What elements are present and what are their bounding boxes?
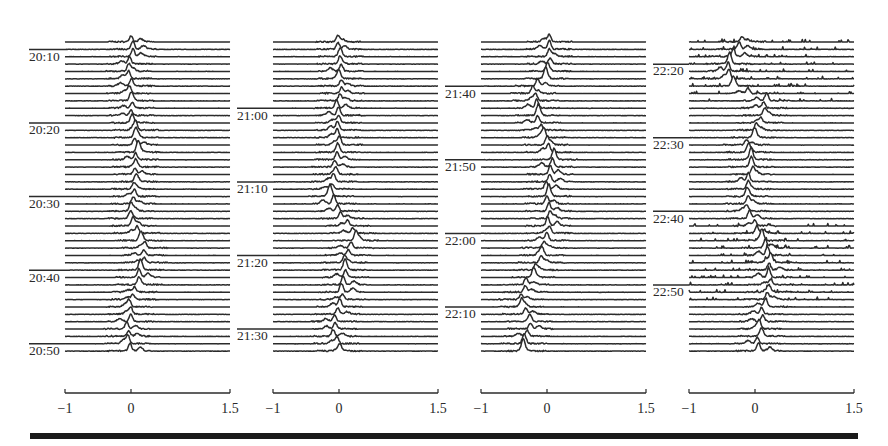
x-tick-label: 1.5	[221, 401, 239, 416]
x-tick-label: 1.5	[845, 401, 863, 416]
waterfall-figure: 20:1020:2020:3020:4020:50−101.5 21:0021:…	[0, 0, 888, 446]
trace	[65, 141, 230, 153]
x-tick-label: −1	[266, 401, 281, 416]
trace	[481, 104, 646, 116]
trace	[273, 322, 438, 329]
trace	[65, 138, 230, 145]
time-label: 20:30	[29, 196, 60, 211]
trace	[481, 323, 646, 329]
trace	[65, 168, 230, 175]
trace	[273, 294, 438, 300]
trace	[481, 67, 646, 79]
trace	[65, 257, 230, 263]
trace	[689, 156, 854, 168]
time-label: 22:10	[445, 306, 476, 321]
trace	[273, 242, 438, 248]
trace	[481, 308, 646, 315]
trace	[481, 241, 646, 248]
trace	[689, 37, 854, 43]
time-label: 20:10	[29, 49, 60, 64]
x-tick-label: 0	[752, 401, 759, 416]
time-label: 20:50	[29, 343, 60, 358]
trace	[689, 315, 854, 323]
trace	[689, 128, 854, 138]
trace	[65, 331, 230, 337]
trace	[65, 294, 230, 300]
time-label: 21:30	[237, 328, 268, 343]
trace	[65, 127, 230, 138]
trace	[481, 264, 646, 271]
trace	[65, 287, 230, 293]
trace	[273, 315, 438, 322]
trace	[273, 161, 438, 168]
trace	[481, 278, 646, 285]
trace	[481, 330, 646, 337]
trace	[273, 35, 438, 42]
trace	[689, 140, 854, 146]
trace	[273, 308, 438, 315]
trace	[481, 124, 646, 131]
trace	[273, 143, 438, 153]
trace	[689, 102, 854, 109]
trace	[689, 220, 854, 227]
x-tick-label: −1	[474, 401, 489, 416]
time-label: 22:00	[445, 233, 476, 248]
trace	[65, 102, 230, 108]
trace	[65, 250, 230, 256]
time-label: 21:20	[237, 255, 268, 270]
trace	[273, 87, 438, 94]
panel-3: 21:4021:5022:0022:10−101.5	[445, 34, 655, 416]
trace	[65, 120, 230, 131]
trace	[481, 58, 646, 64]
panel-2: 21:0021:1021:2021:30−101.5	[237, 35, 447, 416]
x-tick-label: −1	[682, 401, 697, 416]
trace	[273, 80, 438, 86]
time-label: 22:20	[653, 63, 684, 78]
trace	[481, 127, 646, 138]
trace	[273, 220, 438, 227]
trace	[689, 52, 854, 65]
bottom-rule	[30, 433, 858, 439]
time-label: 20:40	[29, 270, 60, 285]
x-tick-label: 0	[544, 401, 551, 416]
trace	[65, 197, 230, 204]
time-label: 21:00	[237, 108, 268, 123]
x-tick-label: 0	[128, 401, 135, 416]
trace	[481, 148, 646, 160]
time-label: 22:30	[653, 137, 684, 152]
trace	[689, 229, 854, 241]
trace	[65, 182, 230, 189]
panel-1: 20:1020:2020:3020:4020:50−101.5	[29, 36, 239, 416]
trace	[273, 330, 438, 337]
time-label: 21:40	[445, 86, 476, 101]
trace	[481, 34, 646, 42]
time-label: 21:50	[445, 159, 476, 174]
x-tick-label: 1.5	[429, 401, 447, 416]
x-tick-label: 1.5	[637, 401, 655, 416]
panel-4: 22:2022:3022:4022:50−101.5	[653, 37, 863, 416]
time-label: 20:20	[29, 122, 60, 137]
trace	[481, 79, 646, 86]
x-tick-label: 0	[336, 401, 343, 416]
x-tick-label: −1	[58, 401, 73, 416]
trace	[481, 294, 646, 300]
trace	[65, 36, 230, 43]
trace	[273, 249, 438, 255]
time-label: 22:50	[653, 284, 684, 299]
trace	[689, 88, 854, 94]
time-label: 21:10	[237, 181, 268, 196]
trace	[65, 110, 230, 116]
trace	[481, 286, 646, 293]
trace	[273, 259, 438, 271]
time-label: 22:40	[653, 211, 684, 226]
trace	[273, 184, 438, 189]
trace	[689, 117, 854, 123]
trace	[689, 205, 854, 212]
trace	[481, 267, 646, 278]
